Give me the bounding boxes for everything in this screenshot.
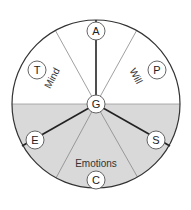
svg-text:P: P <box>153 64 160 76</box>
svg-text:G: G <box>92 98 101 110</box>
node-t: T <box>28 61 46 79</box>
node-c: C <box>87 171 105 189</box>
svg-text:S: S <box>152 134 159 146</box>
svg-text:E: E <box>31 134 38 146</box>
sector-label-will: Will <box>127 66 144 85</box>
svg-text:C: C <box>92 174 100 186</box>
svg-text:A: A <box>92 25 100 37</box>
node-a: A <box>87 22 105 40</box>
wheel-diagram: Mind Will Emotions A T P E S C G <box>0 0 191 210</box>
node-e: E <box>26 131 44 149</box>
node-g-center: G <box>87 95 105 113</box>
node-s: S <box>147 131 165 149</box>
node-p: P <box>148 61 166 79</box>
svg-text:T: T <box>34 64 41 76</box>
sector-label-emotions: Emotions <box>75 158 117 169</box>
